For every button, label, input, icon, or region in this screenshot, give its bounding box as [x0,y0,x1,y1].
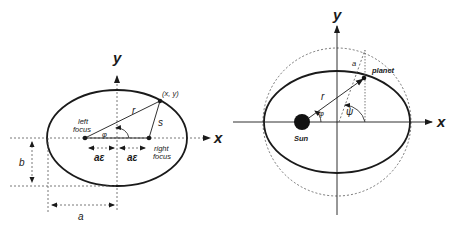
b-label: b [19,157,25,168]
sun-label: Sun [294,134,309,143]
ae-right-label: aε [127,152,138,163]
sun [294,114,310,130]
right-focus-label-line2: focus [153,152,171,161]
a-label-right: a [352,59,356,68]
phi-label: φ [102,130,107,139]
right-y-axis-label: y [332,6,342,23]
phi-angle-arc [116,128,129,138]
planet [362,76,367,81]
a-label: a [78,211,84,222]
point-label: (x, y) [162,89,179,98]
r-vector [306,79,363,120]
left-y-axis-label: y [112,49,122,66]
right-x-axis-label: x [436,113,446,130]
left-focus-label-line2: focus [73,125,91,134]
r-label: r [132,105,136,116]
ae-left-label: aε [94,152,105,163]
left-ellipse-diagram: b a (x, y) r s φ left focus right focus … [10,49,223,222]
s-label: s [158,117,163,128]
planet-label: planet [371,66,395,75]
left-x-axis-label: x [213,129,223,146]
psi-label: ψ [346,106,354,117]
phi-label-right: φ [319,109,324,118]
r-label-right: r [321,91,325,102]
right-orbit-diagram: φ ψ r a planet Sun y x [233,6,446,215]
r-line [85,101,160,138]
ellipse-diagrams: b a (x, y) r s φ left focus right focus … [0,0,452,229]
